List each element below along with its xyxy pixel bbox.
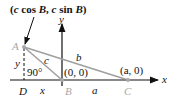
point-c-coordinate: (a, 0) — [120, 64, 144, 77]
vertex-a-dot — [22, 45, 26, 49]
vertex-b-label: B — [65, 85, 72, 97]
pointer-arrow — [25, 17, 34, 44]
segment-x-label: x — [39, 84, 45, 96]
triangle-diagram: (c cos B, c sin B) y x A B C D (0, 0) (a… — [0, 0, 170, 100]
vertex-d-label: D — [18, 85, 27, 97]
side-c-label: c — [44, 54, 49, 66]
y-axis-label: y — [58, 13, 64, 25]
vertex-c-label: C — [124, 85, 132, 97]
origin-coordinate: (0, 0) — [64, 66, 88, 79]
right-angle-label: 90° — [27, 66, 42, 78]
side-b-label: b — [76, 51, 82, 63]
segment-y-label: y — [14, 57, 20, 69]
vertex-b-dot — [60, 78, 64, 82]
side-a-label: a — [92, 84, 98, 96]
x-axis-label: x — [161, 73, 167, 85]
vertex-a-label: A — [11, 40, 19, 52]
point-a-coordinates: (c cos B, c sin B) — [10, 3, 87, 16]
vertex-c-dot — [126, 78, 130, 82]
